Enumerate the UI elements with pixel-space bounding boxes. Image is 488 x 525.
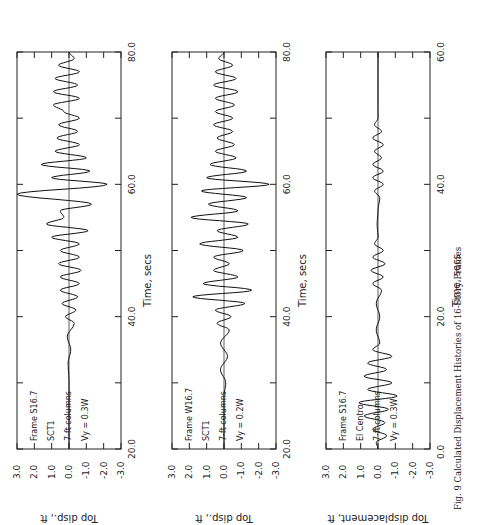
- panel-2: 3.02.01.00.0-1.0-2.0-3.020.040.060.080.0…: [167, 42, 308, 524]
- annotation-text: Frame W16.7: [185, 388, 194, 441]
- x-tick-label: 40.0: [282, 306, 292, 326]
- x-axis-label: Time, secs: [297, 254, 308, 308]
- y-tick-label: 0.0: [219, 464, 229, 479]
- y-tick-label: -1.0: [390, 461, 400, 479]
- y-tick-label: 0.0: [64, 464, 74, 479]
- x-axis-label: Time, secs: [142, 254, 153, 308]
- x-tick-label: 20.0: [282, 439, 292, 459]
- x-tick-label: 60.0: [436, 42, 446, 62]
- x-tick-label: 20.0: [436, 306, 446, 326]
- figure-caption: Fig. 9 Calculated Displacement Histories…: [453, 247, 463, 510]
- y-tick-label: 3.0: [167, 464, 177, 479]
- y-tick-label: 1.0: [47, 464, 57, 479]
- annotation-text: Vy = 0.3W: [390, 398, 399, 441]
- figure: 3.02.01.00.0-1.0-2.0-3.020.040.060.080.0…: [0, 0, 488, 525]
- y-tick-label: -2.0: [408, 461, 418, 479]
- y-tick-label: 3.0: [321, 464, 331, 479]
- x-tick-label: 60.0: [282, 174, 292, 194]
- annotation-text: El Centro: [356, 404, 365, 441]
- displacement-trace: [17, 52, 107, 449]
- x-tick-label: 40.0: [436, 174, 446, 194]
- annotation-text: SCT1: [202, 420, 211, 441]
- x-tick-label: 0.0: [436, 444, 446, 459]
- annotation-text: Vy = 0.3W: [81, 398, 90, 441]
- y-tick-label: -2.0: [99, 461, 109, 479]
- annotation-text: Frame S16.7: [30, 391, 39, 441]
- y-tick-label: -3.0: [116, 461, 126, 479]
- x-tick-label: 80.0: [127, 42, 137, 62]
- y-tick-label: 3.0: [12, 464, 22, 479]
- y-tick-label: 1.0: [356, 464, 366, 479]
- y-tick-label: 0.0: [373, 464, 383, 479]
- y-axis-label: Top displacement, ft: [327, 513, 429, 524]
- x-tick-label: 20.0: [127, 439, 137, 459]
- x-tick-label: 80.0: [282, 42, 292, 62]
- y-tick-label: 2.0: [184, 464, 194, 479]
- annotation-text: Frame S16.7: [339, 391, 348, 441]
- panel-3: 3.02.01.00.0-1.0-2.0-3.00.020.040.060.0T…: [321, 42, 462, 524]
- x-tick-label: 40.0: [127, 306, 137, 326]
- y-tick-label: -1.0: [236, 461, 246, 479]
- y-tick-label: -2.0: [254, 461, 264, 479]
- annotation-text: 7-ft columns: [373, 391, 382, 441]
- y-tick-label: -3.0: [425, 461, 435, 479]
- annotation-text: Vy = 0.2W: [236, 398, 245, 441]
- y-axis-label: Top disp., ft: [40, 513, 99, 524]
- y-tick-label: -1.0: [81, 461, 91, 479]
- y-axis-label: Top disp., ft: [195, 513, 254, 524]
- panel-1: 3.02.01.00.0-1.0-2.0-3.020.040.060.080.0…: [12, 42, 153, 524]
- annotation-text: SCT1: [47, 420, 56, 441]
- x-tick-label: 60.0: [127, 174, 137, 194]
- y-tick-label: 2.0: [29, 464, 39, 479]
- y-tick-label: -3.0: [271, 461, 281, 479]
- y-tick-label: 1.0: [202, 464, 212, 479]
- y-tick-label: 2.0: [338, 464, 348, 479]
- displacement-trace: [191, 52, 269, 449]
